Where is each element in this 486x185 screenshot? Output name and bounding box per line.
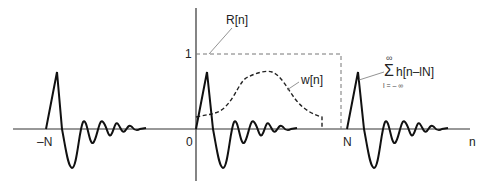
rect-window-curve: [196, 54, 341, 129]
rect-window-label: R[n]: [226, 14, 248, 26]
impulse-response-neg-N: [46, 72, 146, 168]
sum-lower-limit: l = – ∞: [383, 82, 403, 89]
signal-diagram: [0, 0, 486, 185]
tick-label-one: 1: [185, 48, 192, 60]
sum-sigma: Σ: [384, 63, 394, 79]
rect-window-leader: [209, 28, 232, 54]
tick-label-N: N: [343, 136, 352, 148]
impulse-response-0: [196, 72, 297, 168]
periodic-sum-leader: [359, 72, 384, 80]
axis-label-n: n: [469, 136, 476, 148]
window-leader: [287, 82, 299, 90]
window-label: w[n]: [301, 74, 323, 86]
periodic-sum-label: h[n–lN]: [396, 66, 434, 78]
tick-label-zero: 0: [186, 136, 193, 148]
tick-label-neg-N: –N: [37, 136, 52, 148]
